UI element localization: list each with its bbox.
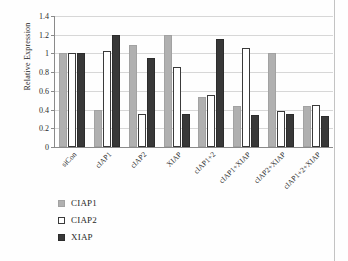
bar: [303, 106, 311, 147]
bar: [164, 35, 172, 147]
bar: [173, 67, 181, 147]
plot-area: 1.41.210.80.60.40.20: [54, 16, 333, 147]
x-axis-tick-label-text: cIAP1+2: [192, 150, 218, 176]
bar: [268, 53, 276, 148]
legend-swatch-icon: [58, 234, 65, 241]
legend-label: CIAP2: [71, 215, 97, 225]
legend-swatch-icon: [58, 217, 65, 224]
x-axis-tick-label-text: siCon: [60, 150, 79, 169]
bar-group: [90, 16, 125, 147]
y-axis-tick: [51, 53, 54, 54]
bar: [233, 106, 241, 147]
legend-item: XIAP: [58, 232, 97, 242]
bar-group: [159, 16, 194, 147]
x-axis-tick-label-text: cIAP2: [128, 150, 148, 170]
legend-item: CIAP2: [58, 215, 97, 225]
bar-group: [264, 16, 299, 147]
x-axis-tick-label: XIAP: [159, 148, 194, 198]
y-axis-tick-label: 1: [45, 49, 49, 58]
y-axis-tick-label: 1.4: [39, 12, 49, 21]
bar: [321, 116, 329, 147]
x-axis-tick-label-text: XIAP: [164, 150, 183, 169]
figure-bar-chart: Relative Expression 1.41.210.80.60.40.20…: [0, 0, 348, 261]
legend-item: CIAP1: [58, 198, 97, 208]
bar: [129, 45, 137, 147]
legend-label: CIAP1: [71, 198, 97, 208]
bar: [138, 114, 146, 147]
bar: [216, 39, 224, 147]
y-axis-tick: [51, 72, 54, 73]
bar: [77, 53, 85, 147]
x-axis-tick-label: cIAP1: [90, 148, 125, 198]
bar: [147, 58, 155, 147]
y-axis-tick-label: 0.2: [39, 124, 49, 133]
bar: [103, 51, 111, 147]
bar: [182, 114, 190, 147]
legend-label: XIAP: [71, 232, 93, 242]
y-axis-tick-label: 0.4: [39, 105, 49, 114]
y-axis-tick: [51, 110, 54, 111]
x-axis-tick-label: siCon: [55, 148, 90, 198]
bar: [68, 53, 76, 147]
bar: [112, 35, 120, 147]
bar: [277, 111, 285, 147]
legend-swatch-icon: [58, 200, 65, 207]
y-axis-title: Relative Expression: [23, 0, 32, 117]
y-axis-tick: [51, 128, 54, 129]
bar-group: [229, 16, 264, 147]
bar: [251, 115, 259, 147]
bar-group: [55, 16, 90, 147]
bar-group: [125, 16, 160, 147]
bar: [286, 114, 294, 147]
bar: [59, 53, 67, 147]
y-axis-tick: [51, 147, 54, 148]
page-edge-rule: [334, 0, 335, 261]
y-axis-tick: [51, 91, 54, 92]
y-axis-tick: [51, 16, 54, 17]
x-axis-tick-label-text: cIAP1: [94, 150, 114, 170]
bar-group: [194, 16, 229, 147]
bar-group: [298, 16, 333, 147]
bar: [198, 97, 206, 147]
bar: [312, 105, 320, 147]
bar: [94, 110, 102, 147]
x-axis-tick-label: cIAP1+2+XIAP: [298, 148, 333, 198]
bar-groups: [55, 16, 333, 147]
x-axis-tick-labels: siConcIAP1cIAP2XIAPcIAP1+2cIAP1+XIAPcIAP…: [55, 148, 333, 198]
chart-legend: CIAP1CIAP2XIAP: [58, 198, 97, 242]
y-axis-tick-label: 1.2: [39, 30, 49, 39]
y-axis-tick-label: 0: [45, 143, 49, 152]
y-axis-tick: [51, 35, 54, 36]
bar: [242, 48, 250, 147]
y-axis-tick-label: 0.8: [39, 68, 49, 77]
bar: [207, 95, 215, 147]
y-axis-tick-label: 0.6: [39, 86, 49, 95]
x-axis-tick-label: cIAP2: [125, 148, 160, 198]
